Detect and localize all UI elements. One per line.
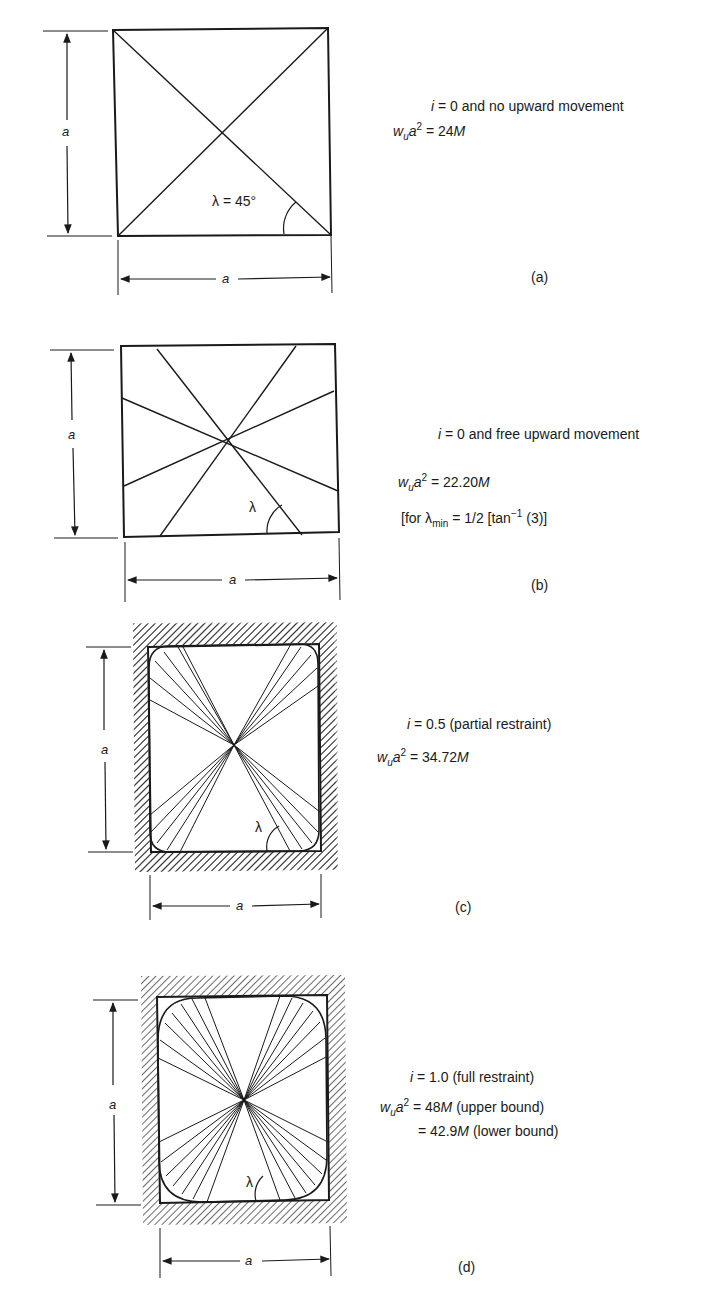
yield-line <box>160 346 296 536</box>
caption-b: (b) <box>531 578 548 592</box>
dim-label-horizontal-d: a <box>243 1254 254 1267</box>
angle-arc <box>284 202 296 234</box>
dim-label-vertical-b: a <box>66 428 77 441</box>
caption-d: (d) <box>458 1260 475 1274</box>
condition-c: i = 0.5 (partial restraint) <box>407 717 551 731</box>
angle-label-b: λ <box>249 500 256 514</box>
angle-label-d: λ <box>246 1175 253 1189</box>
dim-label-horizontal-b: a <box>227 573 238 586</box>
caption-a: (a) <box>531 270 548 284</box>
panel-a-diagram <box>43 28 332 295</box>
slab-outline <box>121 344 339 537</box>
angle-label-a: λ = 45° <box>212 194 256 208</box>
yield-line <box>122 398 338 491</box>
condition-a: i = 0 and no upward movement <box>431 99 624 113</box>
equation-b: wua2 = 22.20M <box>398 473 490 493</box>
angle-label-c: λ <box>255 820 262 834</box>
equation-d-lower: = 42.9M (lower bound) <box>418 1124 559 1138</box>
condition-d: i = 1.0 (full restraint) <box>410 1070 534 1084</box>
condition-b: i = 0 and free upward movement <box>438 427 639 441</box>
dim-label-vertical-d: a <box>107 1098 118 1111</box>
yield-line <box>124 391 334 486</box>
panel-d-diagram <box>93 975 347 1278</box>
dim-label-horizontal-a: a <box>220 272 231 285</box>
equation-a: wua2 = 24M <box>393 122 465 142</box>
caption-c: (c) <box>455 900 471 914</box>
dim-label-vertical-a: a <box>60 125 71 138</box>
lambda-min-note-b: [for λmin = 1/2 [tan−1 (3)] <box>401 509 547 529</box>
yield-line <box>157 349 302 535</box>
panel-c-diagram <box>86 622 338 920</box>
panel-b-diagram <box>50 344 340 602</box>
equation-c: wua2 = 34.72M <box>377 748 469 768</box>
equation-d: wua2 = 48M (upper bound) <box>380 1098 544 1118</box>
angle-arc <box>267 505 282 533</box>
dim-label-vertical-c: a <box>99 743 110 756</box>
dim-label-horizontal-c: a <box>234 899 245 912</box>
